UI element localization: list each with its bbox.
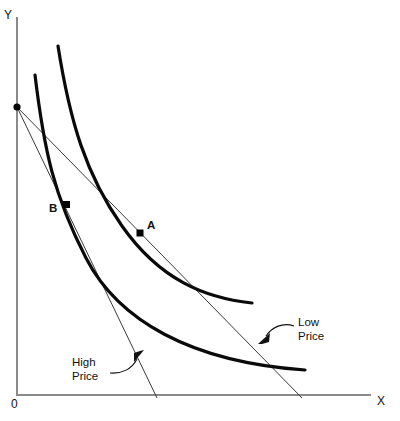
lower-indifference-curve — [35, 75, 305, 370]
x-axis-label: X — [377, 394, 385, 408]
high-price-label-line2: Price — [72, 370, 98, 382]
low-price-label-line2: Price — [298, 330, 324, 342]
high-price-leader-line — [110, 359, 137, 373]
diagram-canvas: Y X 0 B A Low Price High Price — [0, 0, 400, 421]
point-b-label: B — [49, 202, 57, 214]
origin-label: 0 — [11, 397, 18, 411]
low-price-label-line1: Low — [298, 316, 320, 328]
point-b-marker — [63, 201, 70, 208]
low-price-budget-line — [17, 107, 302, 398]
point-a-label: A — [147, 219, 155, 231]
low-price-leader-line — [266, 325, 294, 336]
low-price-arrowhead — [258, 333, 270, 344]
high-price-label-line1: High — [72, 356, 96, 368]
upper-indifference-curve — [58, 46, 252, 303]
point-a-marker — [137, 230, 144, 237]
y-axis-label: Y — [4, 8, 12, 22]
indifference-curve-diagram: Y X 0 B A Low Price High Price — [0, 0, 400, 421]
budget-intercept-dot — [13, 103, 20, 110]
